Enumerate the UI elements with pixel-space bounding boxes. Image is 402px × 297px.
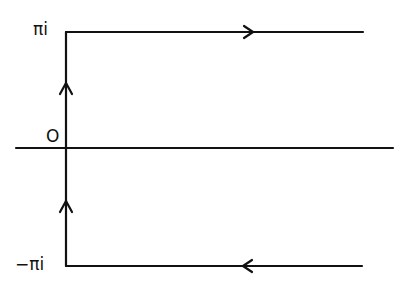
label-pi-i: πi	[33, 21, 48, 38]
label-origin: O	[46, 128, 59, 145]
label-minus-pi-i: −πi	[15, 256, 44, 273]
contour-diagram	[0, 0, 402, 297]
